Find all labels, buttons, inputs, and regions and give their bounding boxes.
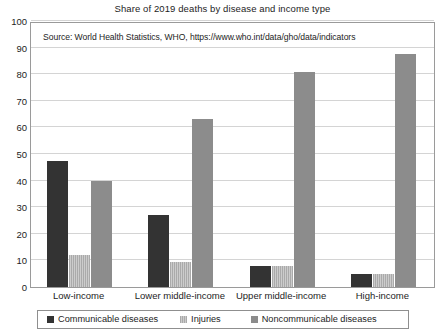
legend-item: Injuries <box>180 315 221 324</box>
bar <box>272 266 293 287</box>
bar <box>250 266 271 287</box>
chart-title: Share of 2019 deaths by disease and inco… <box>0 3 445 14</box>
y-tick-label: 60 <box>0 124 27 134</box>
x-axis: Low-incomeLower middle-incomeUpper middl… <box>30 290 435 306</box>
y-tick-label: 70 <box>0 97 27 107</box>
bar <box>47 161 68 287</box>
chart-legend: Communicable diseasesInjuriesNoncommunic… <box>37 310 409 329</box>
bar <box>294 72 315 287</box>
bar <box>192 119 213 287</box>
gridline <box>31 20 434 21</box>
legend-item: Noncommunicable diseases <box>251 315 377 324</box>
legend-item: Communicable diseases <box>47 315 158 324</box>
legend-label: Communicable diseases <box>58 315 158 324</box>
x-tick-label: High-income <box>356 290 409 301</box>
bar <box>170 262 191 287</box>
y-tick-label: 0 <box>0 283 27 293</box>
legend-label: Noncommunicable diseases <box>262 315 377 324</box>
y-tick-label: 10 <box>0 257 27 267</box>
y-tick-label: 80 <box>0 70 27 80</box>
bar <box>148 215 169 287</box>
bar-group <box>234 23 335 287</box>
legend-swatch-icon <box>47 316 54 323</box>
y-tick-label: 100 <box>0 17 27 27</box>
y-tick-label: 50 <box>0 150 27 160</box>
bar-chart: Share of 2019 deaths by disease and inco… <box>0 0 445 336</box>
y-tick-label: 40 <box>0 177 27 187</box>
legend-swatch-icon <box>180 316 187 323</box>
x-tick-label: Lower middle-income <box>135 290 225 301</box>
x-tick-label: Upper middle-income <box>236 290 326 301</box>
bar-group <box>335 23 436 287</box>
x-tick-label: Low-income <box>53 290 104 301</box>
bar <box>351 274 372 287</box>
bar-group <box>31 23 132 287</box>
bar <box>395 54 416 287</box>
bar <box>69 255 90 287</box>
bar <box>91 181 112 287</box>
bar-group <box>132 23 233 287</box>
y-tick-label: 30 <box>0 203 27 213</box>
y-tick-label: 20 <box>0 230 27 240</box>
bars-layer <box>31 23 434 287</box>
y-axis: 0102030405060708090100 <box>0 22 27 288</box>
legend-swatch-icon <box>251 316 258 323</box>
legend-label: Injuries <box>191 315 221 324</box>
bar <box>373 274 394 287</box>
plot-area: Source: World Health Statistics, WHO, ht… <box>30 22 435 288</box>
y-tick-label: 90 <box>0 44 27 54</box>
